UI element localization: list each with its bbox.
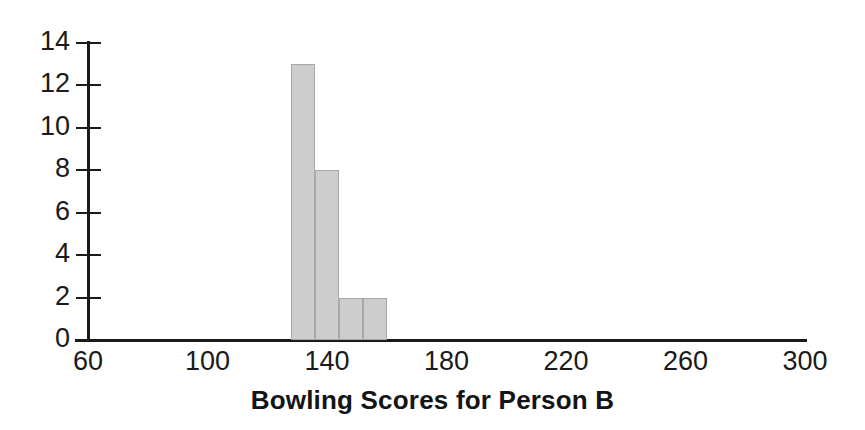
y-tick-label-text: 2 xyxy=(55,283,70,310)
x-tick-label-text: 260 xyxy=(663,348,708,375)
x-tick-label-text: 300 xyxy=(782,348,827,375)
y-tick-label-text: 12 xyxy=(40,70,70,97)
chart-title: Bowling Scores for Person B xyxy=(0,385,865,416)
x-tick-label-text: 140 xyxy=(304,348,349,375)
y-tick-label-text: 14 xyxy=(40,28,70,55)
y-tick-label-text: 4 xyxy=(55,240,70,267)
y-tick-label-text: 10 xyxy=(40,113,70,140)
x-tick-label-text: 220 xyxy=(543,348,588,375)
y-tick-label-text: 6 xyxy=(55,198,70,225)
histogram-chart: 02468101214 60100140180220260300 Bowling… xyxy=(0,0,865,430)
y-tick-label-text: 0 xyxy=(55,325,70,352)
histogram-bar xyxy=(315,170,339,340)
x-tick-label-text: 60 xyxy=(73,348,103,375)
histogram-bar xyxy=(363,298,387,340)
x-tick-label-text: 180 xyxy=(424,348,469,375)
x-tick-label-text: 100 xyxy=(185,348,230,375)
plot-area xyxy=(88,43,805,340)
histogram-bar xyxy=(291,64,315,340)
histogram-bar xyxy=(339,298,363,340)
y-tick-label-text: 8 xyxy=(55,155,70,182)
